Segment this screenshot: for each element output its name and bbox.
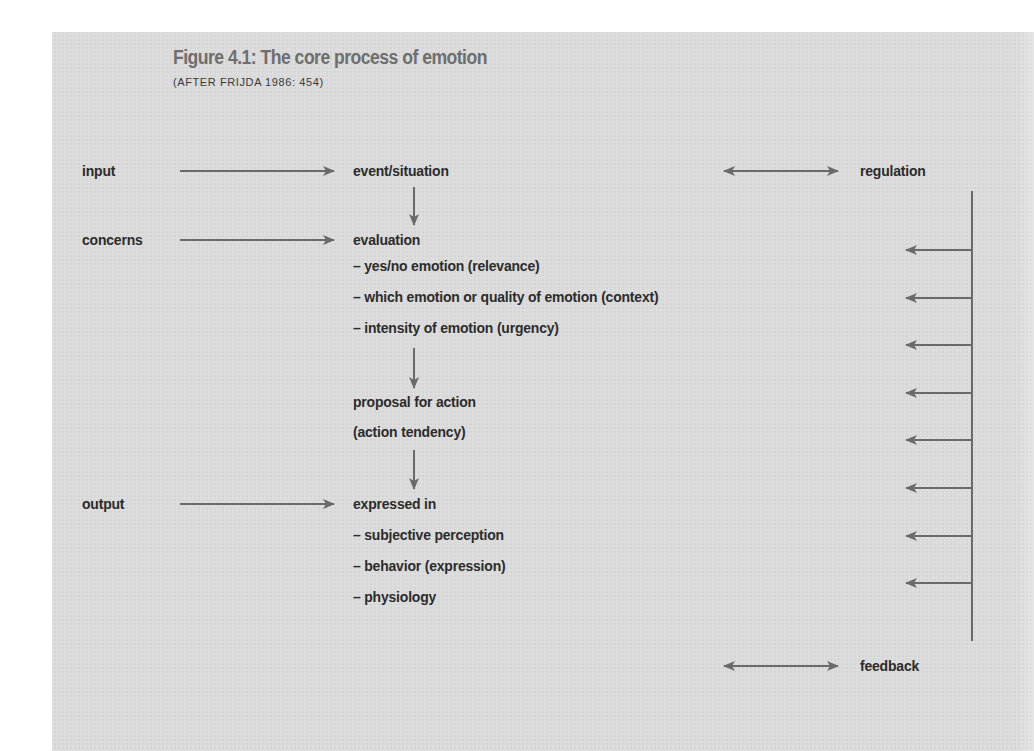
proposal-node-line1: proposal for action (353, 392, 476, 412)
feedback-label: feedback (860, 656, 919, 676)
output-label: output (82, 494, 124, 514)
event-situation-node: event/situation (353, 161, 449, 181)
evaluation-item-urgency: – intensity of emotion (urgency) (353, 318, 559, 338)
figure-subtitle: (AFTER FRIJDA 1986: 454) (173, 76, 324, 88)
concerns-label: concerns (82, 230, 143, 250)
page-edge-shade (1016, 32, 1034, 751)
figure-title: Figure 4.1: The core process of emotion (173, 46, 487, 69)
expressed-node: expressed in (353, 494, 436, 514)
expressed-item-perception: – subjective perception (353, 525, 504, 545)
evaluation-item-relevance: – yes/no emotion (relevance) (353, 256, 539, 276)
expressed-item-physiology: – physiology (353, 587, 436, 607)
evaluation-node: evaluation (353, 230, 420, 250)
evaluation-item-context: – which emotion or quality of emotion (c… (353, 287, 658, 307)
figure-panel (52, 32, 1034, 751)
expressed-item-behavior: – behavior (expression) (353, 556, 505, 576)
regulation-label: regulation (860, 161, 926, 181)
proposal-node-line2: (action tendency) (353, 422, 465, 442)
input-label: input (82, 161, 115, 181)
